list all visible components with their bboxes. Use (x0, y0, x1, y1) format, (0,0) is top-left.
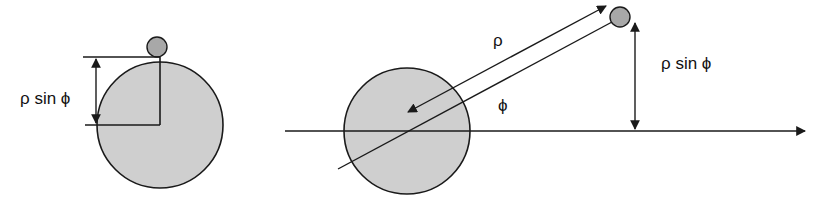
left-satellite (147, 37, 167, 57)
right-height-label: ρ sin ϕ (661, 55, 711, 72)
right-panel (285, 6, 805, 194)
left-panel (83, 37, 223, 188)
diagram-canvas (0, 0, 819, 205)
phi-label: ϕ (498, 97, 508, 114)
rho-label: ρ (493, 32, 503, 49)
left-height-label: ρ sin ϕ (20, 90, 70, 107)
right-satellite (610, 7, 630, 27)
